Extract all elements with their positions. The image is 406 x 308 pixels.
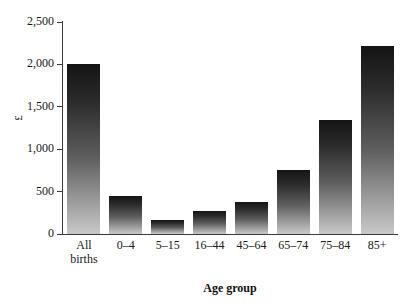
x-axis-tick-label: 5–15	[147, 238, 189, 252]
x-axis-title: Age group	[62, 281, 398, 296]
y-axis-tick-label: 2,500	[10, 15, 54, 27]
bar	[235, 202, 268, 234]
bar	[193, 211, 226, 234]
bar	[319, 120, 352, 234]
x-axis-tick-label: 65–74	[272, 238, 314, 252]
x-axis-tick-label: 16–44	[189, 238, 231, 252]
x-axis-line	[62, 234, 398, 235]
bar	[67, 64, 100, 234]
bar	[151, 220, 184, 234]
bar	[277, 170, 310, 234]
x-axis-tick-label: 0–4	[105, 238, 147, 252]
x-axis-tick-label: All births	[63, 238, 105, 266]
x-axis-tick-label: 45–64	[231, 238, 273, 252]
y-axis-tick-label: 0	[10, 227, 54, 239]
plot-area	[63, 22, 398, 234]
y-axis-tick-label: 2,000	[10, 57, 54, 69]
y-axis-tick-label: 1,500	[10, 100, 54, 112]
x-axis-tick-label: 85+	[356, 238, 398, 252]
bar	[361, 46, 394, 234]
bar-chart: £ 05001,0001,5002,0002,500 All births0–4…	[0, 0, 406, 308]
bar	[109, 196, 142, 234]
x-axis-tick-label: 75–84	[314, 238, 356, 252]
y-axis-tick-label: 500	[10, 185, 54, 197]
y-axis-tick-label: 1,000	[10, 142, 54, 154]
